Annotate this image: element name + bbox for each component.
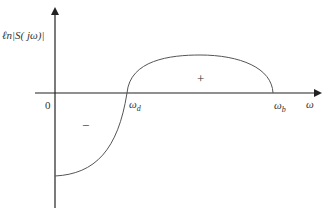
negative-region-label: − (82, 119, 89, 132)
origin-label: 0 (45, 100, 51, 111)
omega-b-label: ωb (274, 100, 286, 114)
y-axis-label: ℓn|S( jω)| (2, 30, 45, 41)
omega-d-label: ωd (129, 99, 141, 113)
x-axis-label: ω (306, 99, 314, 110)
sensitivity-diagram: ℓn|S( jω)| 0 ωd ωb ω + − (0, 0, 331, 223)
positive-region-label: + (197, 72, 204, 85)
negative-curve (55, 93, 127, 176)
